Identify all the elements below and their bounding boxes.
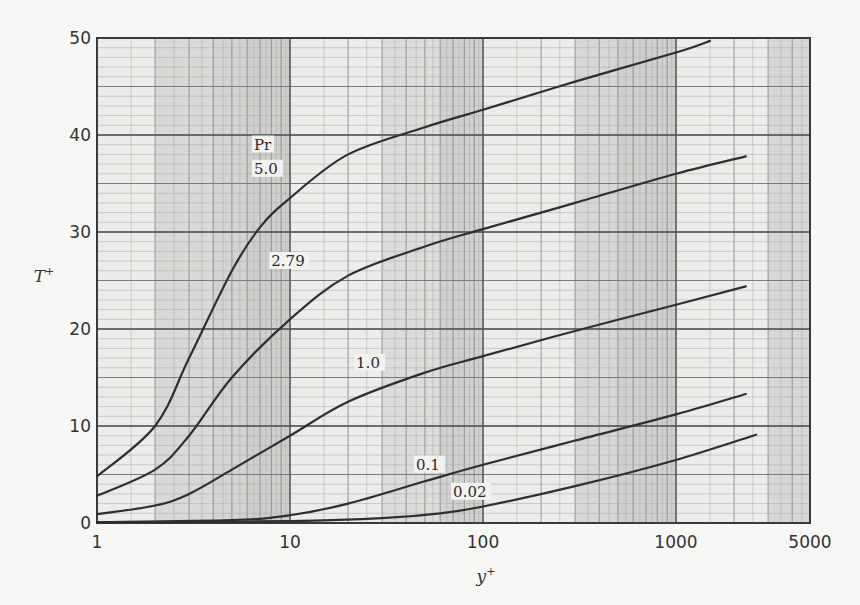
x-axis-tick-labels: 11010010005000 <box>92 532 832 552</box>
x-tick-label: 100 <box>467 532 499 552</box>
x-axis-title: y+ <box>476 565 496 586</box>
curve-label: 2.79 <box>271 252 304 270</box>
superscript-plus: + <box>45 265 54 278</box>
x-tick-label: 5000 <box>788 532 831 552</box>
y-tick-label: 20 <box>69 319 91 339</box>
y-tick-label: 0 <box>80 513 91 533</box>
curve-label: 0.1 <box>416 456 440 474</box>
x-tick-label: 1000 <box>654 532 697 552</box>
y-tick-label: 40 <box>69 125 91 145</box>
curve-label: 1.0 <box>356 354 380 372</box>
y-axis-title: T+ <box>34 265 55 286</box>
y-tick-label: 30 <box>69 222 91 242</box>
x-tick-label: 10 <box>279 532 301 552</box>
curve-label: Pr <box>254 136 272 154</box>
y-axis-tick-labels: 01020304050 <box>69 28 91 533</box>
y-tick-label: 10 <box>69 416 91 436</box>
curve-label: 5.0 <box>254 160 278 178</box>
chart: Pr5.02.791.00.10.02 11010010005000 01020… <box>0 0 860 605</box>
superscript-plus: + <box>486 565 495 578</box>
x-tick-label: 1 <box>92 532 103 552</box>
y-tick-label: 50 <box>69 28 91 48</box>
curve-label: 0.02 <box>453 483 486 501</box>
